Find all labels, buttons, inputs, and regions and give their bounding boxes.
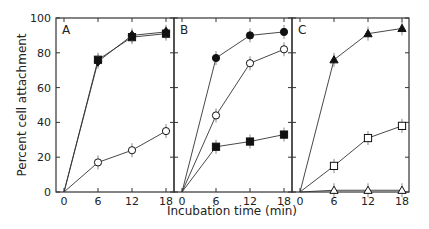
panel-b: 061218B xyxy=(174,18,292,208)
x-tick-label: 18 xyxy=(159,195,173,208)
panel-a: 061218A xyxy=(56,18,174,208)
series-open-circles xyxy=(182,42,288,192)
circle-marker xyxy=(212,54,219,61)
square-marker xyxy=(246,138,253,145)
y-tick-label: 20 xyxy=(37,151,51,164)
panel-frame xyxy=(56,18,174,192)
series-filled-circles xyxy=(182,25,288,192)
circle-marker xyxy=(128,147,135,154)
series-open-circles xyxy=(64,124,170,192)
series-filled-diamonds xyxy=(64,25,170,192)
x-tick-label: 6 xyxy=(95,195,102,208)
chart-canvas: Percent cell attachment Incubation time … xyxy=(0,0,429,229)
y-axis-ticks: 020406080100 xyxy=(30,12,51,199)
circle-marker xyxy=(246,60,253,67)
square-marker xyxy=(364,134,371,141)
square-marker xyxy=(212,143,219,150)
chart-panels: 061218A061218B061218C xyxy=(56,18,409,208)
y-tick-label: 0 xyxy=(44,186,51,199)
circle-marker xyxy=(246,32,253,39)
y-tick-label: 80 xyxy=(37,47,51,60)
panel-frame xyxy=(292,18,409,192)
triangle-marker xyxy=(398,24,406,31)
x-tick-label: 0 xyxy=(61,195,68,208)
circle-marker xyxy=(94,159,101,166)
panel-c: 061218C xyxy=(292,18,409,208)
x-tick-label: 12 xyxy=(243,195,257,208)
series-filled-squares xyxy=(64,27,170,192)
chart-figure: Percent cell attachment Incubation time … xyxy=(0,0,429,229)
triangle-marker xyxy=(398,186,406,193)
circle-marker xyxy=(280,46,287,53)
x-tick-label: 18 xyxy=(277,195,291,208)
x-tick-label: 6 xyxy=(213,195,220,208)
panel-label: C xyxy=(298,23,306,37)
series-filled-triangles xyxy=(300,21,406,192)
circle-marker xyxy=(280,28,287,35)
y-tick-label: 100 xyxy=(30,12,51,25)
triangle-marker xyxy=(330,56,338,63)
x-tick-label: 0 xyxy=(297,195,304,208)
panel-label: A xyxy=(62,23,71,37)
y-tick-label: 60 xyxy=(37,82,51,95)
circle-marker xyxy=(162,128,169,135)
square-marker xyxy=(330,162,337,169)
triangle-marker xyxy=(330,186,338,193)
square-marker xyxy=(398,122,405,129)
panel-label: B xyxy=(180,23,188,37)
square-marker xyxy=(280,131,287,138)
x-tick-label: 0 xyxy=(179,195,186,208)
series-open-triangles xyxy=(300,183,406,197)
series-filled-squares xyxy=(182,128,288,192)
circle-marker xyxy=(212,112,219,119)
panel-frame xyxy=(174,18,292,192)
y-tick-label: 40 xyxy=(37,116,51,129)
x-tick-label: 12 xyxy=(125,195,139,208)
triangle-marker xyxy=(364,186,372,193)
y-axis-label: Percent cell attachment xyxy=(15,33,29,176)
